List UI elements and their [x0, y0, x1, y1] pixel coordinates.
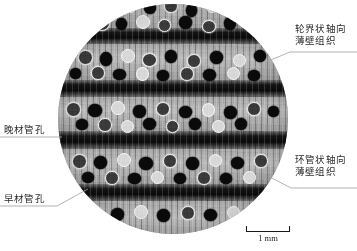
annotation-boundary-parenchyma: 轮界状轴向 薄壁组织 — [295, 24, 346, 47]
annotation-latewood-pores: 晚材管孔 — [4, 125, 45, 137]
annotation-latewood-pores-text: 晚材管孔 — [4, 125, 45, 137]
scale-bar-label: 1 mm — [246, 233, 290, 243]
micrograph-vignette — [58, 4, 288, 234]
wood-micrograph-figure: 晚材管孔 早材管孔 轮界状轴向 薄壁组织 环管状轴向 薄壁组织 1 mm — [0, 0, 357, 251]
annotation-vasicentric-parenchyma-line1: 环管状轴向 — [295, 155, 346, 167]
annotation-boundary-parenchyma-line2: 薄壁组织 — [295, 36, 346, 48]
annotation-vasicentric-parenchyma-line2: 薄壁组织 — [295, 167, 346, 179]
annotation-vasicentric-parenchyma: 环管状轴向 薄壁组织 — [295, 155, 346, 178]
annotation-earlywood-pores-text: 早材管孔 — [4, 194, 45, 206]
annotation-earlywood-pores: 早材管孔 — [4, 194, 45, 206]
micrograph-content — [58, 4, 288, 234]
annotation-boundary-parenchyma-line1: 轮界状轴向 — [295, 24, 346, 36]
micrograph-image — [58, 4, 288, 234]
scale-bar: 1 mm — [246, 226, 290, 243]
scale-bar-line — [246, 226, 290, 232]
